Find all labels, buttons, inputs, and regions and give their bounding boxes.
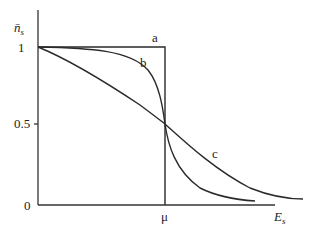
fermi-dirac-chart: n̄s 1 0.5 0 μ Es a b c <box>0 0 316 229</box>
tick-label-zero: 0 <box>24 198 31 213</box>
tick-label-one: 1 <box>18 40 25 55</box>
y-axis-label: n̄s <box>14 20 25 37</box>
x-axis-label: Es <box>273 209 286 226</box>
curve-c <box>38 47 303 199</box>
curve-a <box>38 47 165 205</box>
curve-a-label: a <box>152 30 158 45</box>
curve-b-label: b <box>140 55 147 70</box>
tick-label-half: 0.5 <box>14 116 30 131</box>
curve-b <box>38 47 255 201</box>
tick-label-mu: μ <box>161 209 168 224</box>
curve-c-label: c <box>212 146 218 161</box>
